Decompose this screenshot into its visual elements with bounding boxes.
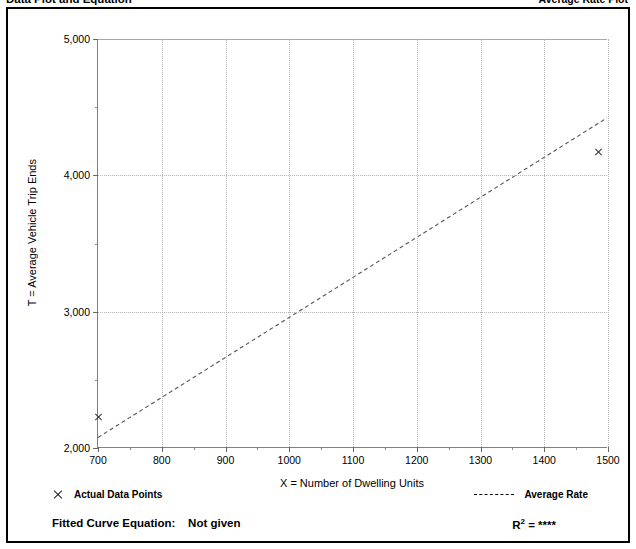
y-axis-tick xyxy=(93,312,98,313)
gridline-vertical xyxy=(481,39,482,447)
gridline-vertical xyxy=(226,39,227,447)
plot-area: 7008009001000110012001300140015002,0003,… xyxy=(97,39,607,448)
r-squared-value: **** xyxy=(538,519,556,531)
fitted-curve-equation: Fitted Curve Equation: Not given xyxy=(52,517,241,529)
x-axis-tick xyxy=(608,447,609,452)
x-axis-tick xyxy=(481,447,482,452)
x-axis-tick-label: 1400 xyxy=(533,454,556,466)
data-point-marker xyxy=(94,412,103,421)
x-axis-minor-tick xyxy=(385,447,386,450)
r-squared-exponent: 2 xyxy=(521,517,525,526)
equation-row: Fitted Curve Equation: Not given R2 = **… xyxy=(8,517,628,541)
x-axis-minor-tick xyxy=(321,447,322,450)
x-axis-title: X = Number of Dwelling Units xyxy=(97,477,607,489)
chart-container: T = Average Vehicle Trip Ends 7008009001… xyxy=(8,9,628,489)
y-axis-minor-tick xyxy=(95,244,98,245)
x-axis-tick xyxy=(289,447,290,452)
page-header-right-title: Average Rate Plot xyxy=(539,0,628,5)
gridline-vertical xyxy=(608,39,609,447)
gridline-vertical xyxy=(162,39,163,447)
x-axis-tick-label: 700 xyxy=(89,454,107,466)
gridline-horizontal xyxy=(98,312,607,313)
y-axis-tick xyxy=(93,175,98,176)
legend-average-rate: Average Rate xyxy=(474,489,588,500)
y-axis-title: T = Average Vehicle Trip Ends xyxy=(26,159,44,306)
y-axis-minor-tick xyxy=(95,380,98,381)
x-axis-tick xyxy=(226,447,227,452)
x-axis-tick-label: 1500 xyxy=(596,454,619,466)
fitted-curve-label: Fitted Curve Equation: xyxy=(52,517,175,529)
x-axis-minor-tick xyxy=(130,447,131,450)
x-axis-tick-label: 1000 xyxy=(278,454,301,466)
x-axis-tick xyxy=(353,447,354,452)
y-axis-tick xyxy=(93,39,98,40)
x-axis-minor-tick xyxy=(449,447,450,450)
x-axis-tick-label: 1300 xyxy=(469,454,492,466)
gridline-horizontal xyxy=(98,175,607,176)
x-axis-minor-tick xyxy=(576,447,577,450)
y-axis-tick-label: 3,000 xyxy=(64,306,90,318)
r-squared-statistic: R2 = **** xyxy=(512,517,556,531)
gridline-vertical xyxy=(289,39,290,447)
gridline-vertical xyxy=(353,39,354,447)
y-axis-tick-label: 2,000 xyxy=(64,442,90,454)
legend-actual-points-label: Actual Data Points xyxy=(74,489,162,500)
y-axis-tick-label: 4,000 xyxy=(64,169,90,181)
page-header: Data Plot and Equation Average Rate Plot xyxy=(0,0,636,7)
x-axis-tick xyxy=(162,447,163,452)
x-axis-minor-tick xyxy=(257,447,258,450)
x-axis-tick-label: 800 xyxy=(153,454,171,466)
x-axis-minor-tick xyxy=(512,447,513,450)
x-axis-tick-label: 1100 xyxy=(342,454,365,466)
cross-marker-icon xyxy=(52,489,63,500)
page-header-left-title: Data Plot and Equation xyxy=(6,0,132,5)
y-axis-tick-label: 5,000 xyxy=(64,33,90,45)
y-axis-tick xyxy=(93,448,98,449)
figure-frame: T = Average Vehicle Trip Ends 7008009001… xyxy=(6,7,630,543)
data-point-marker xyxy=(594,148,603,157)
x-axis-tick xyxy=(544,447,545,452)
gridline-vertical xyxy=(544,39,545,447)
x-axis-minor-tick xyxy=(194,447,195,450)
x-axis-tick xyxy=(417,447,418,452)
legend-actual-points: Actual Data Points xyxy=(52,489,162,500)
y-axis-minor-tick xyxy=(95,107,98,108)
r-squared-label: R xyxy=(512,519,520,531)
gridline-vertical xyxy=(417,39,418,447)
fitted-curve-value: Not given xyxy=(188,517,240,529)
dashed-line-icon xyxy=(474,494,514,495)
x-axis-tick xyxy=(98,447,99,452)
legend-average-rate-label: Average Rate xyxy=(524,489,588,500)
x-axis-tick-label: 1200 xyxy=(405,454,428,466)
x-axis-tick-label: 900 xyxy=(217,454,235,466)
r-squared-equals: = xyxy=(528,519,535,531)
legend-row: Actual Data Points Average Rate xyxy=(8,489,628,515)
